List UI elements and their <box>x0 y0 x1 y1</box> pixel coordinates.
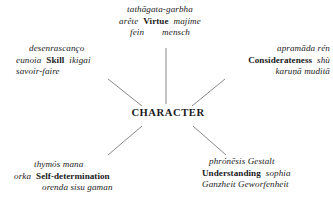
cluster-self-determination: thymós mana orkaSelf-determination orend… <box>14 159 166 194</box>
cluster-skill-line-2: eunoiaSkillikigai <box>16 55 134 67</box>
cluster-considerateness: apramāda rén Consideratenessshù karuṇā m… <box>202 43 330 78</box>
cluster-self-determination-line-3: orenda sisu gaman <box>14 182 166 194</box>
cluster-considerateness-line-3: karuṇā muditā <box>202 66 330 78</box>
term-karuna-mudita: karuṇā muditā <box>275 66 330 76</box>
cluster-considerateness-line-2: Consideratenessshù <box>202 55 330 67</box>
term-desenrascanco: desenrascanço <box>29 43 84 53</box>
cluster-understanding-line-3: Ganzheit Geworfenheit <box>202 179 332 191</box>
term-mensch: mensch <box>162 27 190 37</box>
character-concept-diagram: tathāgata-garbha arêteVirtuemajime feinm… <box>0 0 333 209</box>
cluster-virtue-line-3: feinmensch <box>99 27 221 39</box>
term-tathagata-garbha: tathāgata-garbha <box>127 4 193 14</box>
core-term-virtue: Virtue <box>143 16 168 26</box>
term-orka: orka <box>14 171 31 181</box>
center-node-label: CHARACTER <box>131 107 204 118</box>
core-term-self-determination: Self-determination <box>36 171 110 181</box>
connector-line-understanding <box>193 126 226 155</box>
term-orenda-sisu-gaman: orenda sisu gaman <box>42 182 113 192</box>
center-node-character: CHARACTER <box>116 107 220 118</box>
term-arete: arête <box>119 16 138 26</box>
term-shu: shù <box>317 55 330 65</box>
connector-line-considerateness <box>192 79 225 106</box>
core-term-understanding: Understanding <box>202 168 261 178</box>
cluster-considerateness-line-1: apramāda rén <box>202 43 330 55</box>
term-ganzheit-geworfenheit: Ganzheit Geworfenheit <box>202 179 289 189</box>
cluster-skill: desenrascanço eunoiaSkillikigai savoir-f… <box>16 43 134 78</box>
cluster-understanding: phrónēsis Gestalt Understandingsophia Ga… <box>202 156 332 191</box>
connector-line-skill <box>108 79 142 106</box>
cluster-virtue: tathāgata-garbha arêteVirtuemajime feinm… <box>99 4 221 39</box>
term-sophia: sophia <box>266 168 291 178</box>
term-phronesis-gestalt: phrónēsis Gestalt <box>209 156 275 166</box>
term-eunoia: eunoia <box>16 55 41 65</box>
cluster-skill-line-1: desenrascanço <box>16 43 134 55</box>
cluster-virtue-line-1: tathāgata-garbha <box>99 4 221 16</box>
term-apramada-ren: apramāda rén <box>277 43 330 53</box>
term-majime: majime <box>174 16 201 26</box>
core-term-skill: Skill <box>46 55 64 65</box>
cluster-virtue-line-2: arêteVirtuemajime <box>99 16 221 28</box>
term-savoir-faire: savoir-faire <box>16 66 60 76</box>
term-ikigai: ikigai <box>69 55 90 65</box>
cluster-self-determination-line-1: thymós mana <box>14 159 166 171</box>
cluster-self-determination-line-2: orkaSelf-determination <box>14 171 166 183</box>
connector-line-self-determination <box>108 126 142 155</box>
core-term-considerateness: Considerateness <box>248 55 312 65</box>
term-fein: fein <box>130 27 144 37</box>
cluster-understanding-line-1: phrónēsis Gestalt <box>202 156 332 168</box>
term-thymos-mana: thymós mana <box>34 159 83 169</box>
cluster-skill-line-3: savoir-faire <box>16 66 134 78</box>
cluster-understanding-line-2: Understandingsophia <box>202 168 332 180</box>
